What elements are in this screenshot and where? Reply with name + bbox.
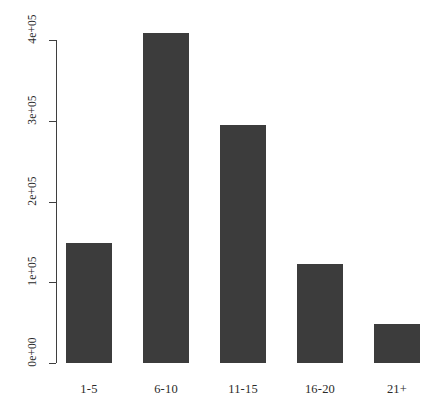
y-tick-label-0-text: 0e+00 (25, 337, 37, 366)
plot-area: 0e+00 1e+05 2e+05 3e+05 4e+05 1-5 6-10 1… (0, 0, 434, 417)
x-tick-label-1: 6-10 (142, 382, 190, 397)
y-tick-mark-1 (49, 282, 56, 283)
y-tick-label-1: 1e+05 (0, 265, 46, 277)
y-tick-mark-0 (49, 363, 56, 364)
y-axis-line (56, 40, 57, 363)
bar-4 (374, 324, 420, 363)
y-tick-label-2: 2e+05 (0, 185, 46, 197)
bar-0 (66, 243, 112, 363)
y-tick-label-4: 4e+05 (0, 23, 46, 35)
x-tick-label-3: 16-20 (296, 382, 344, 397)
y-tick-label-3: 3e+05 (0, 104, 46, 116)
x-tick-label-4: 21+ (373, 382, 421, 397)
y-tick-mark-3 (49, 121, 56, 122)
bar-3 (297, 264, 343, 363)
bar-1 (143, 33, 189, 363)
y-tick-label-1-text: 1e+05 (25, 256, 37, 285)
x-tick-label-2: 11-15 (219, 382, 267, 397)
y-tick-label-2-text: 2e+05 (25, 176, 37, 205)
y-tick-label-3-text: 3e+05 (25, 95, 37, 124)
x-tick-label-0: 1-5 (65, 382, 113, 397)
y-tick-mark-2 (49, 202, 56, 203)
y-tick-mark-4 (49, 40, 56, 41)
bar-chart: 0e+00 1e+05 2e+05 3e+05 4e+05 1-5 6-10 1… (0, 0, 434, 417)
y-tick-label-4-text: 4e+05 (25, 14, 37, 43)
bar-2 (220, 125, 266, 363)
y-tick-label-0: 0e+00 (0, 346, 46, 358)
